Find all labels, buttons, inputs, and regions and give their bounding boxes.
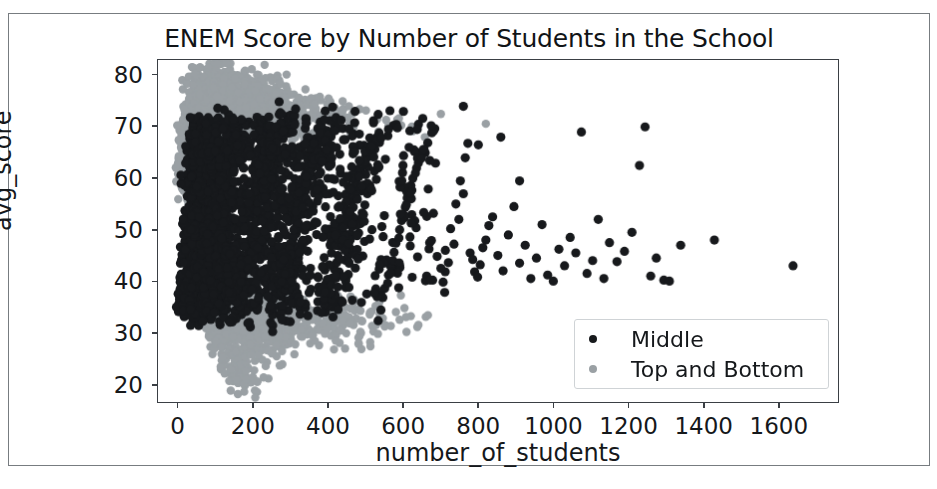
y-axis-label: avg_score	[0, 110, 17, 231]
y-tick-label: 60	[114, 165, 143, 191]
x-tick-label: 800	[456, 413, 500, 439]
legend-label-top-and-bottom: Top and Bottom	[631, 357, 804, 382]
legend-marker-middle	[589, 335, 597, 343]
x-tick-mark	[327, 403, 329, 408]
y-tick-label: 80	[114, 62, 143, 88]
legend-item-top-and-bottom: Top and Bottom	[589, 356, 804, 382]
y-tick-label: 30	[114, 320, 143, 346]
x-tick-mark	[628, 403, 630, 408]
x-tick-label: 1400	[674, 413, 733, 439]
x-tick-mark	[703, 403, 705, 408]
x-tick-label: 1200	[599, 413, 658, 439]
y-tick-label: 70	[114, 113, 143, 139]
y-tick-label: 50	[114, 217, 143, 243]
x-tick-mark	[477, 403, 479, 408]
x-tick-label: 600	[381, 413, 425, 439]
x-tick-label: 1600	[750, 413, 809, 439]
legend-item-middle: Middle	[589, 326, 704, 352]
x-tick-mark	[252, 403, 254, 408]
x-tick-label: 200	[231, 413, 275, 439]
x-tick-mark	[177, 403, 179, 408]
x-tick-label: 0	[170, 413, 185, 439]
x-axis-label: number_of_students	[157, 439, 839, 467]
x-tick-mark	[402, 403, 404, 408]
x-tick-mark	[778, 403, 780, 408]
chart-legend: Middle Top and Bottom	[574, 319, 829, 389]
figure-frame: ENEM Score by Number of Students in the …	[8, 13, 930, 466]
x-tick-label: 400	[306, 413, 350, 439]
y-tick-label: 40	[114, 268, 143, 294]
legend-label-middle: Middle	[631, 327, 704, 352]
legend-marker-top-and-bottom	[589, 365, 597, 373]
chart-title: ENEM Score by Number of Students in the …	[9, 24, 929, 53]
x-tick-mark	[553, 403, 555, 408]
x-tick-label: 1000	[524, 413, 583, 439]
y-tick-label: 20	[114, 372, 143, 398]
